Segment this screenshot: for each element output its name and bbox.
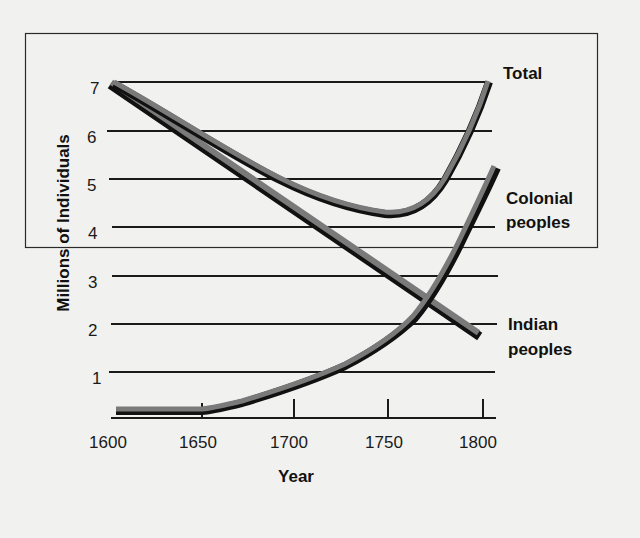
x-tick-label-1600: 1600: [89, 433, 127, 452]
y-axis-title: Millions of Individuals: [54, 134, 73, 312]
x-tick-labels: 1600 1650 1700 1750 1800: [89, 433, 497, 452]
y-tick-3: 3: [88, 273, 97, 292]
y-tick-5: 5: [87, 176, 96, 195]
y-tick-7: 7: [90, 79, 99, 98]
series-colonial-peoples: [116, 166, 497, 411]
label-indian-2: peoples: [508, 340, 572, 359]
x-tick-label-1750: 1750: [365, 433, 403, 452]
y-tick-2: 2: [88, 321, 97, 340]
label-total: Total: [503, 64, 542, 83]
label-colonial-1: Colonial: [506, 189, 573, 208]
y-tick-labels: 7 6 5 4 3 2 1: [87, 79, 101, 388]
label-colonial-2: peoples: [506, 213, 570, 232]
y-tick-4: 4: [88, 224, 97, 243]
x-axis-title: Year: [278, 467, 314, 486]
y-tick-1: 1: [92, 369, 101, 388]
chart-main: 7 6 5 4 3 2 1 1600 1650 1700 1750 1800 Y…: [0, 0, 640, 538]
y-tick-6: 6: [87, 128, 96, 147]
x-tick-label-1700: 1700: [270, 433, 308, 452]
gridlines: [107, 82, 498, 418]
series-total: [114, 81, 489, 214]
label-indian-1: Indian: [508, 315, 558, 334]
x-tick-label-1800: 1800: [459, 433, 497, 452]
x-tick-label-1650: 1650: [179, 433, 217, 452]
